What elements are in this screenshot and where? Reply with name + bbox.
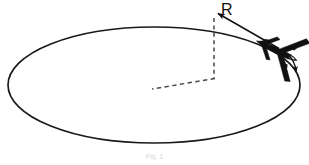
diagram-svg [0, 0, 309, 165]
aircraft-icon [246, 19, 309, 83]
radius-vector-label: R [221, 2, 233, 18]
horizontal-radius-dashed-line [152, 79, 215, 90]
velocity-vector-label: v [286, 52, 291, 61]
figure-canvas: R v Fig. 1 [0, 0, 309, 165]
figure-caption: Fig. 1 [0, 153, 309, 160]
flight-path-ellipse [8, 27, 300, 143]
